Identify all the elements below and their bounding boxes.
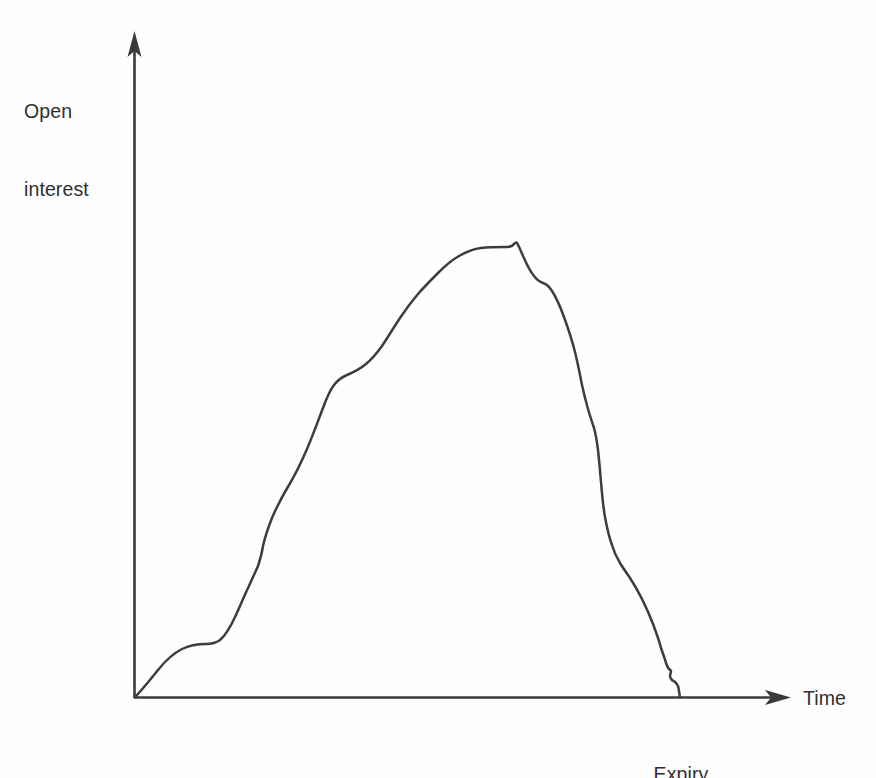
- x-axis-label: Time: [803, 685, 846, 711]
- chart-canvas: [0, 0, 876, 778]
- expiry-date-annotation: Expiry date: [610, 709, 752, 778]
- x-axis: [134, 690, 791, 705]
- expiry-date-line1: Expiry: [610, 761, 752, 778]
- y-axis: [128, 31, 142, 698]
- y-axis-label-line2: interest: [24, 176, 89, 202]
- chart-figure: Open interest Time Expiry date: [0, 0, 876, 778]
- open-interest-curve: [135, 243, 680, 697]
- y-axis-label-line1: Open: [24, 98, 89, 124]
- y-axis-label: Open interest: [24, 46, 89, 254]
